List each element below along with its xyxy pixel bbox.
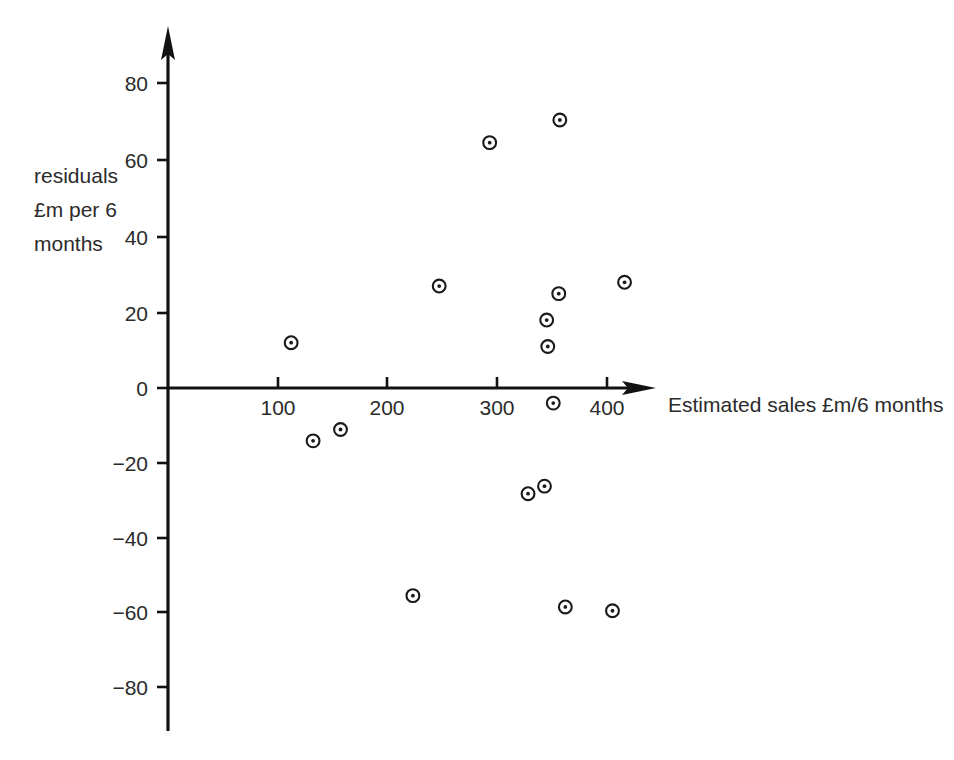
y-tick-label-minus-60: −60 <box>112 601 148 624</box>
y-tick-label-80: 80 <box>125 72 148 95</box>
data-point <box>559 601 572 614</box>
x-tick-marks <box>278 377 607 388</box>
x-axis-title: Estimated sales £m/6 months <box>668 393 943 416</box>
data-point <box>433 280 446 293</box>
y-tick-marks <box>157 83 168 687</box>
x-tick-label-400: 400 <box>589 396 624 419</box>
y-tick-label-minus-20: −20 <box>112 452 148 475</box>
y-tick-label-40: 40 <box>125 226 148 249</box>
y-tick-label-20: 20 <box>125 302 148 325</box>
data-point-center-dot <box>546 345 550 349</box>
x-tick-label-300: 300 <box>479 396 514 419</box>
data-point <box>334 423 347 436</box>
y-axis-title-line-2: £m per 6 <box>34 198 117 221</box>
scatter-plot-figure: 80 60 40 20 0 −20 −40 −60 −80 100 200 30… <box>0 0 954 760</box>
data-point-center-dot <box>545 318 549 322</box>
data-point-center-dot <box>526 492 530 496</box>
x-tick-label-100: 100 <box>260 396 295 419</box>
data-point-center-dot <box>411 594 415 598</box>
data-point <box>522 487 535 500</box>
y-tick-label-minus-40: −40 <box>112 527 148 550</box>
data-point-center-dot <box>311 439 315 443</box>
data-point-center-dot <box>623 280 627 284</box>
plot-canvas: 80 60 40 20 0 −20 −40 −60 −80 100 200 30… <box>0 0 954 760</box>
y-axis-title-line-3: months <box>34 232 103 255</box>
data-point <box>406 589 419 602</box>
data-point-center-dot <box>551 401 555 405</box>
data-point-center-dot <box>557 292 561 296</box>
data-point-layer <box>285 114 631 618</box>
data-point-center-dot <box>437 284 441 288</box>
data-point <box>606 604 619 617</box>
data-point <box>307 434 320 447</box>
data-point-center-dot <box>289 341 293 345</box>
data-point-center-dot <box>339 428 343 432</box>
data-point <box>538 480 551 493</box>
data-point <box>285 336 298 349</box>
y-tick-label-minus-80: −80 <box>112 676 148 699</box>
data-point <box>483 136 496 149</box>
y-tick-label-60: 60 <box>125 149 148 172</box>
data-point-center-dot <box>488 141 492 145</box>
x-tick-label-200: 200 <box>369 396 404 419</box>
data-point <box>540 314 553 327</box>
data-point <box>547 397 560 410</box>
y-tick-label-0: 0 <box>136 377 148 400</box>
data-point-center-dot <box>543 484 547 488</box>
data-point-center-dot <box>558 118 562 122</box>
data-point <box>553 114 566 127</box>
data-point-center-dot <box>611 609 615 613</box>
data-point-center-dot <box>563 605 567 609</box>
y-axis-title-line-1: residuals <box>34 164 118 187</box>
data-point <box>618 276 631 289</box>
data-point <box>541 340 554 353</box>
data-point <box>552 287 565 300</box>
